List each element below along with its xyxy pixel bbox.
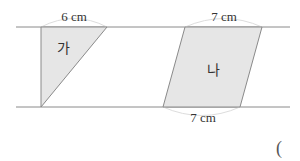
dimension-label-na-top: 7 cm [211,9,237,24]
area-comparison-diagram: 6 cm 7 cm 7 cm 가 나 ( [0,0,300,161]
answer-paren: ( [276,138,282,159]
shape-label-na: 나 [207,62,220,78]
dimension-label-ga-top: 6 cm [61,9,87,24]
triangle-ga [41,27,107,107]
shape-label-ga: 가 [57,40,70,56]
dimension-label-na-bottom: 7 cm [190,110,216,125]
